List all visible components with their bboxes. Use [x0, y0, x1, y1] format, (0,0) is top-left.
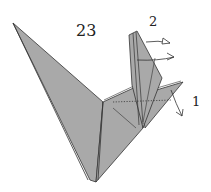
- origami-diagram: 23 2 1: [0, 0, 211, 192]
- annotation-2: 2: [149, 14, 157, 29]
- step-number: 23: [76, 21, 96, 40]
- annotation-1: 1: [192, 94, 200, 109]
- origami-figure: [0, 0, 211, 192]
